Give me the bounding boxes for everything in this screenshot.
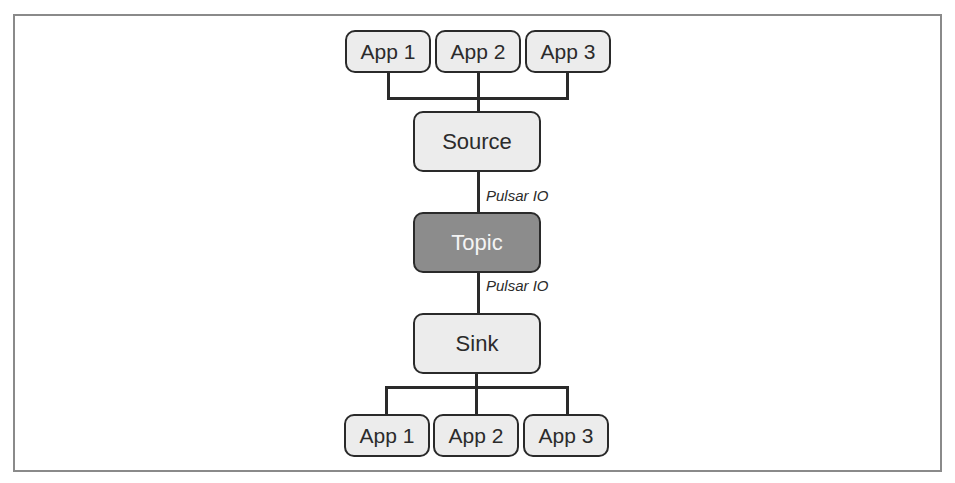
node-label: App 3 bbox=[539, 424, 594, 448]
edge-label-topic-sink: Pulsar IO bbox=[486, 277, 549, 294]
node-label: App 2 bbox=[451, 40, 506, 64]
node-label: App 3 bbox=[541, 40, 596, 64]
topic-node: Topic bbox=[413, 212, 541, 273]
connector-top-app3 bbox=[566, 72, 569, 99]
connector-sink-down bbox=[475, 373, 478, 415]
connector-top-horizontal bbox=[387, 97, 569, 100]
edge-label-source-topic: Pulsar IO bbox=[486, 187, 549, 204]
connector-top-app1 bbox=[387, 72, 390, 99]
top-app-2: App 2 bbox=[435, 30, 521, 73]
bottom-app-1: App 1 bbox=[344, 414, 430, 457]
node-label: Source bbox=[442, 129, 512, 155]
source-node: Source bbox=[413, 111, 541, 172]
node-label: Sink bbox=[456, 331, 499, 357]
node-label: App 1 bbox=[361, 40, 416, 64]
node-label: App 2 bbox=[449, 424, 504, 448]
connector-top-app2 bbox=[477, 72, 480, 112]
sink-node: Sink bbox=[413, 313, 541, 374]
top-app-3: App 3 bbox=[525, 30, 611, 73]
connector-bottom-app3 bbox=[566, 386, 569, 415]
connector-source-topic bbox=[477, 171, 480, 213]
bottom-app-3: App 3 bbox=[523, 414, 609, 457]
connector-bottom-app1 bbox=[385, 386, 388, 415]
top-app-1: App 1 bbox=[345, 30, 431, 73]
connector-bottom-horizontal bbox=[385, 386, 569, 389]
node-label: App 1 bbox=[360, 424, 415, 448]
node-label: Topic bbox=[451, 230, 502, 256]
connector-topic-sink bbox=[477, 272, 480, 314]
bottom-app-2: App 2 bbox=[433, 414, 519, 457]
